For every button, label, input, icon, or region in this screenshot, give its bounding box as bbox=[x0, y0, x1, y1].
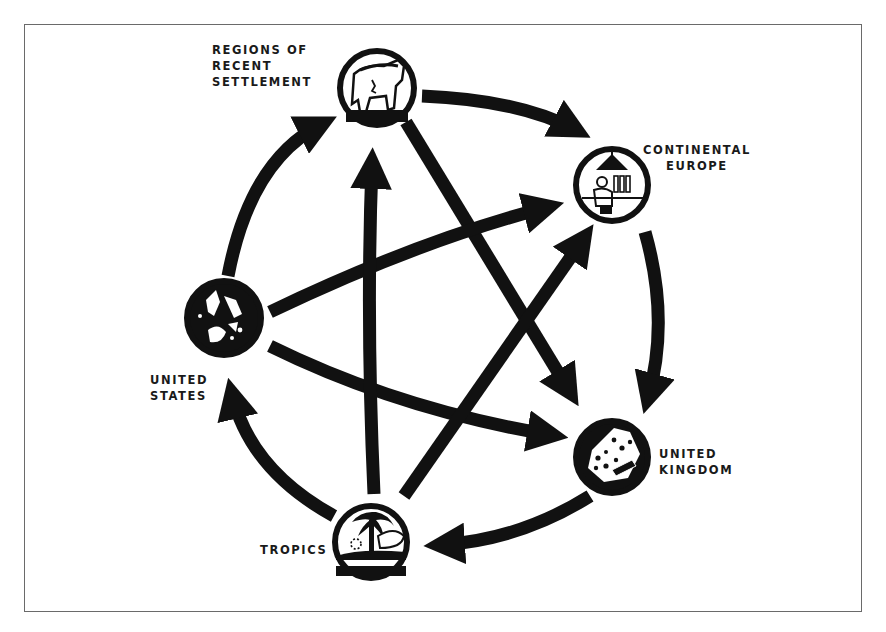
arrow-ce-to-uk bbox=[645, 232, 658, 398]
label-line: UNITED bbox=[150, 372, 208, 388]
label-united-kingdom: UNITED KINGDOM bbox=[659, 446, 733, 478]
label-line: CONTINENTAL bbox=[643, 142, 751, 158]
label-line: EUROPE bbox=[643, 158, 751, 174]
label-line: TROPICS bbox=[260, 542, 327, 558]
node-united-states bbox=[187, 281, 261, 355]
arrow-us-to-uk bbox=[270, 346, 552, 435]
node-tropics bbox=[335, 506, 407, 578]
label-line: RECENT bbox=[212, 58, 312, 74]
node-regions-of-recent-settlement bbox=[340, 51, 414, 125]
node-continental-europe bbox=[576, 149, 648, 221]
trade-flow-diagram bbox=[0, 0, 886, 632]
label-continental-europe: CONTINENTAL EUROPE bbox=[643, 142, 751, 174]
arrow-uk-to-tr bbox=[440, 496, 590, 545]
inner-arrows bbox=[270, 122, 584, 496]
label-line: STATES bbox=[150, 388, 208, 404]
label-united-states: UNITED STATES bbox=[150, 372, 208, 404]
label-tropics: TROPICS bbox=[260, 542, 327, 558]
label-line: SETTLEMENT bbox=[212, 74, 312, 90]
arrow-us-to-rrs bbox=[228, 124, 322, 276]
node-united-kingdom bbox=[576, 421, 648, 493]
label-line: UNITED bbox=[659, 446, 733, 462]
arrow-rrs-to-ce bbox=[422, 96, 576, 130]
label-line: REGIONS OF bbox=[212, 42, 312, 58]
label-line: KINGDOM bbox=[659, 462, 733, 478]
arrow-tr-to-rrs bbox=[369, 164, 374, 494]
label-regions-of-recent-settlement: REGIONS OF RECENT SETTLEMENT bbox=[212, 42, 312, 90]
arrow-tr-to-us bbox=[232, 394, 334, 516]
arrow-rrs-to-uk bbox=[406, 122, 570, 392]
